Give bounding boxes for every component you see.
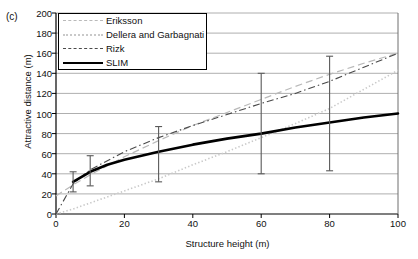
legend-swatch-icon bbox=[63, 48, 103, 49]
series-line bbox=[56, 70, 398, 214]
legend-item: SLIM bbox=[59, 56, 206, 70]
legend-item: Dellera and Garbagnati bbox=[59, 28, 206, 42]
legend-label: Dellera and Garbagnati bbox=[106, 28, 204, 42]
legend-label: Eriksson bbox=[106, 14, 142, 28]
legend-item: Rizk bbox=[59, 42, 206, 56]
figure-panel: (c) Attractive distance (m) 020406080100… bbox=[0, 0, 418, 259]
legend: ErikssonDellera and GarbagnatiRizkSLIM bbox=[58, 13, 207, 70]
series-line bbox=[56, 53, 398, 196]
legend-label: Rizk bbox=[106, 42, 124, 56]
legend-item: Eriksson bbox=[59, 14, 206, 28]
legend-label: SLIM bbox=[106, 56, 128, 70]
legend-swatch-icon bbox=[63, 62, 103, 64]
legend-swatch-icon bbox=[63, 20, 103, 21]
legend-swatch-icon bbox=[63, 34, 103, 36]
x-axis-label: Structure height (m) bbox=[56, 238, 399, 249]
